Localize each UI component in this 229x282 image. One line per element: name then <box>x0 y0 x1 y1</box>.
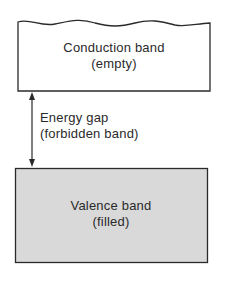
valence-band-title: Valence band <box>15 198 207 214</box>
energy-gap-subtitle: (forbidden band) <box>40 126 139 142</box>
conduction-band-title: Conduction band <box>18 40 210 56</box>
valence-band-state: (filled) <box>15 214 207 230</box>
valence-band-label: Valence band (filled) <box>15 198 207 230</box>
conduction-band-label: Conduction band (empty) <box>18 40 210 72</box>
energy-gap-label: Energy gap (forbidden band) <box>40 110 139 142</box>
energy-gap-title: Energy gap <box>40 110 139 126</box>
energy-gap-arrow-icon <box>29 92 35 167</box>
conduction-band-state: (empty) <box>18 56 210 72</box>
